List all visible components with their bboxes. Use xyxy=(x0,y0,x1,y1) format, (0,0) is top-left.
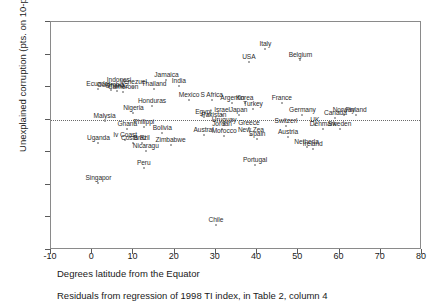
data-point xyxy=(299,59,301,61)
data-point xyxy=(301,114,303,116)
data-point-label: USA xyxy=(242,53,255,60)
data-point xyxy=(97,88,99,90)
y-axis-title: Unexplained corruption (pts. on 10-pt. s… xyxy=(17,0,28,159)
data-point-label: Portugal xyxy=(243,156,267,163)
data-point xyxy=(312,148,314,150)
data-point-label: Zimbabwe xyxy=(156,136,186,143)
data-point xyxy=(355,114,357,116)
data-point-label: Ireland xyxy=(303,140,323,147)
data-point xyxy=(178,85,180,87)
data-point-label: Morocco xyxy=(212,127,237,134)
data-point-label: Nicaragu xyxy=(133,142,159,149)
data-point-label: Brazil xyxy=(134,134,150,141)
data-point xyxy=(264,48,266,50)
data-point xyxy=(252,108,254,110)
x-tick-mark xyxy=(256,249,257,254)
data-point-label: Finland xyxy=(345,106,366,113)
plot-area: ItalyUSABelgiumJamaicaIndiaIndonesiVenez… xyxy=(50,21,421,249)
data-point xyxy=(281,102,283,104)
data-point xyxy=(143,167,145,169)
data-point-label: Cameroon xyxy=(108,83,138,90)
data-point-label: Austria xyxy=(278,128,298,135)
x-tick-mark xyxy=(50,249,51,254)
y-tick-mark xyxy=(45,184,50,185)
data-point xyxy=(126,128,128,130)
data-point xyxy=(97,142,99,144)
x-tick-mark xyxy=(339,249,340,254)
data-point xyxy=(256,138,258,140)
data-point xyxy=(248,61,250,63)
data-point-label: Belgium xyxy=(289,51,312,58)
data-point xyxy=(161,132,163,134)
y-tick-mark xyxy=(45,119,50,120)
data-point-label: Nigeria xyxy=(123,104,144,111)
data-point-label: Germany xyxy=(289,106,316,113)
data-point xyxy=(145,150,147,152)
data-point-label: Malysia xyxy=(94,112,116,119)
figure-caption: Residuals from regression of 1998 TI ind… xyxy=(57,290,328,301)
data-point-label: Singapor xyxy=(85,174,111,181)
data-point xyxy=(203,134,205,136)
data-point xyxy=(238,114,240,116)
data-point-label: Italy xyxy=(259,40,271,47)
data-point-label: Spain xyxy=(249,130,266,137)
data-point-label: Thailand xyxy=(142,80,167,87)
data-point xyxy=(143,126,145,128)
y-tick-mark xyxy=(45,54,50,55)
data-point xyxy=(116,90,118,92)
data-point-label: France xyxy=(272,94,292,101)
data-point xyxy=(231,102,233,104)
data-point-label: Austral xyxy=(193,126,213,133)
data-point-label: Peru xyxy=(137,159,151,166)
data-point-label: Uganda xyxy=(87,134,110,141)
data-point xyxy=(339,128,341,130)
data-point xyxy=(223,135,225,137)
x-tick-mark xyxy=(421,249,422,254)
data-point-label: India xyxy=(172,77,186,84)
x-tick-mark xyxy=(380,249,381,254)
data-point xyxy=(170,144,172,146)
data-point-label: Greece xyxy=(238,119,259,126)
x-tick-mark xyxy=(297,249,298,254)
data-point xyxy=(211,99,213,101)
data-point xyxy=(322,128,324,130)
data-point-label: Bolivia xyxy=(153,124,172,131)
data-point-label: Ghana xyxy=(117,120,137,127)
data-point-label: Chile xyxy=(208,216,223,223)
x-tick-mark xyxy=(174,249,175,254)
y-tick-mark xyxy=(45,216,50,217)
data-point xyxy=(132,112,134,114)
data-point-label: Mexico xyxy=(179,91,200,98)
x-tick-mark xyxy=(91,249,92,254)
x-tick-mark xyxy=(132,249,133,254)
y-tick-mark xyxy=(45,21,50,22)
scatter-plot-figure: ItalyUSABelgiumJamaicaIndiaIndonesiVenez… xyxy=(0,0,448,307)
data-point xyxy=(104,120,106,122)
data-point-label: Canada xyxy=(324,109,347,116)
data-point xyxy=(122,91,124,93)
data-point xyxy=(254,164,256,166)
data-point xyxy=(110,89,112,91)
data-point xyxy=(151,105,153,107)
data-point xyxy=(287,136,289,138)
x-tick-mark xyxy=(215,249,216,254)
data-point-label: Sweden xyxy=(328,120,352,127)
data-point xyxy=(285,125,287,127)
data-point-label: Switzerl xyxy=(275,117,298,124)
data-point xyxy=(153,88,155,90)
data-point xyxy=(215,224,217,226)
y-tick-mark xyxy=(45,86,50,87)
data-point xyxy=(188,99,190,101)
y-tick-mark xyxy=(45,151,50,152)
x-axis-title: Degrees latitude from the Equator xyxy=(57,268,200,279)
data-point-label: Japan xyxy=(230,106,248,113)
data-point xyxy=(97,182,99,184)
